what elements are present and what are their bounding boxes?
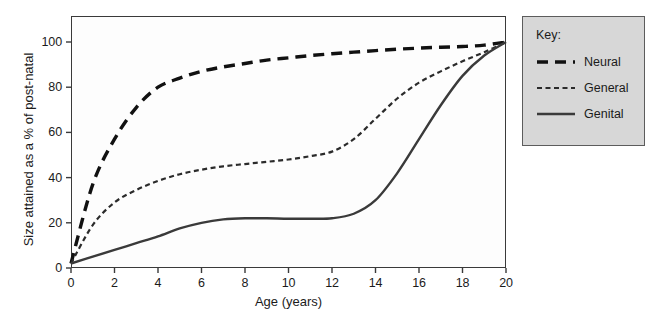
y-axis-title: Size attained as a % of post-natal <box>21 25 36 275</box>
x-tick-label: 4 <box>155 276 162 290</box>
x-tick-label: 20 <box>499 276 513 290</box>
legend-swatch-genital-icon <box>536 108 576 120</box>
x-tick-label: 2 <box>111 276 118 290</box>
x-tick-label: 18 <box>456 276 470 290</box>
legend-label: Neural <box>584 55 621 69</box>
legend-title: Key: <box>536 28 644 42</box>
x-tick-label: 10 <box>282 276 296 290</box>
legend-swatch-general-icon <box>536 82 576 94</box>
growth-curves-figure: 020406080100 02468101214161820 Size atta… <box>0 0 663 331</box>
legend-label: General <box>584 81 628 95</box>
legend-item-neural: Neural <box>536 49 644 75</box>
x-tick-label: 6 <box>198 276 205 290</box>
x-tick-label: 8 <box>242 276 249 290</box>
legend-items: NeuralGeneralGenital <box>536 49 644 127</box>
x-axis-title: Age (years) <box>71 294 506 309</box>
plot-frame <box>71 16 506 268</box>
x-tick-label: 12 <box>325 276 339 290</box>
legend-swatch-neural-icon <box>536 56 576 68</box>
x-tick-label: 16 <box>412 276 426 290</box>
legend: Key: NeuralGeneralGenital <box>522 16 645 146</box>
legend-label: Genital <box>584 107 624 121</box>
x-tick-label: 0 <box>68 276 75 290</box>
legend-item-genital: Genital <box>536 101 644 127</box>
x-tick-label: 14 <box>369 276 383 290</box>
chart-area: 020406080100 02468101214161820 Size atta… <box>0 0 515 331</box>
legend-item-general: General <box>536 75 644 101</box>
